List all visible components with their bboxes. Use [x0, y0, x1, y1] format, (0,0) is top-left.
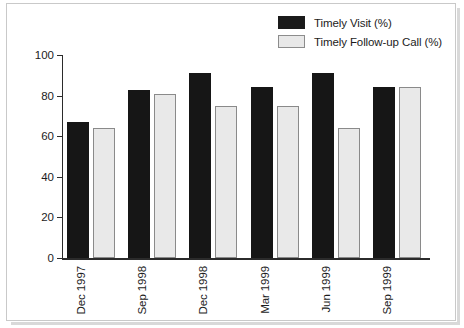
y-axis-tick-label: 100 [35, 49, 54, 61]
bar-timely-followup-call [338, 128, 360, 258]
x-axis-tick-label: Dec 1997 [75, 266, 87, 314]
bar-timely-visit [128, 90, 150, 258]
y-axis-tick [57, 136, 62, 137]
plot-area: 020406080100 Dec 1997Sep 1998Dec 1998Mar… [62, 55, 430, 259]
chart-legend: Timely Visit (%) Timely Follow-up Call (… [278, 13, 454, 51]
bar-timely-followup-call [154, 94, 176, 258]
bar-timely-followup-call [399, 87, 421, 258]
y-axis-tick [57, 96, 62, 97]
x-axis-tick-label: Sep 1998 [136, 266, 148, 314]
page-shadow-bottom [11, 322, 460, 325]
y-axis-tick [57, 258, 62, 259]
y-axis-line [62, 55, 63, 259]
x-axis-tick-label: Mar 1999 [259, 266, 271, 314]
bar-timely-visit [373, 87, 395, 258]
chart-figure: Timely Visit (%) Timely Follow-up Call (… [0, 0, 464, 328]
y-axis-tick-label: 0 [48, 252, 54, 264]
bar-timely-followup-call [215, 106, 237, 258]
y-axis-tick-label: 40 [41, 171, 54, 183]
x-axis-line [62, 258, 430, 260]
page-shadow-right [457, 8, 460, 324]
legend-item-timely-followup-call: Timely Follow-up Call (%) [278, 32, 454, 51]
bar-timely-visit [189, 73, 211, 258]
x-axis-tick-label: Dec 1998 [197, 266, 209, 314]
bar-timely-followup-call [277, 106, 299, 258]
y-axis-tick-label: 60 [41, 130, 54, 142]
legend-label-timely-followup-call: Timely Follow-up Call (%) [314, 36, 442, 48]
bar-timely-visit [312, 73, 334, 258]
legend-swatch-timely-followup-call [278, 35, 305, 48]
y-axis-tick-label: 80 [41, 90, 54, 102]
y-axis-tick-label: 20 [41, 211, 54, 223]
y-axis-tick [57, 177, 62, 178]
y-axis-tick [57, 217, 62, 218]
y-axis-tick [57, 55, 62, 56]
bar-timely-visit [67, 122, 89, 258]
bar-timely-followup-call [93, 128, 115, 258]
x-axis-tick-label: Jun 1999 [320, 266, 332, 313]
legend-swatch-timely-visit [278, 16, 305, 29]
bar-timely-visit [251, 87, 273, 258]
x-axis-tick-label: Sep 1999 [381, 266, 393, 314]
legend-item-timely-visit: Timely Visit (%) [278, 13, 454, 32]
legend-label-timely-visit: Timely Visit (%) [314, 17, 392, 29]
